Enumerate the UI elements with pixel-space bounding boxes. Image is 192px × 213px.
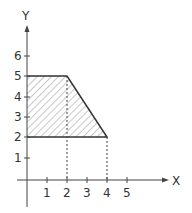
x-tick-label: 4 [103, 186, 111, 200]
y-axis-label: Y [21, 9, 30, 23]
y-tick-label: 1 [14, 151, 22, 165]
x-tick-label: 5 [123, 186, 131, 200]
x-axis-arrow-icon [162, 178, 169, 183]
x-axis [17, 177, 169, 183]
y-axis-arrow-icon [25, 25, 30, 32]
x-tick-label: 3 [83, 186, 91, 200]
y-tick-label: 5 [14, 69, 22, 83]
y-tick-label: 3 [14, 110, 22, 124]
x-axis-label: X [172, 174, 180, 188]
y-tick-label: 6 [14, 49, 22, 63]
y-tick-label: 2 [14, 130, 22, 144]
x-tick-label: 1 [43, 186, 51, 200]
coordinate-diagram: Y X 1 2 3 4 5 1 2 3 4 5 6 [0, 0, 192, 213]
x-tick-label: 2 [63, 186, 71, 200]
y-tick-label: 4 [14, 90, 22, 104]
